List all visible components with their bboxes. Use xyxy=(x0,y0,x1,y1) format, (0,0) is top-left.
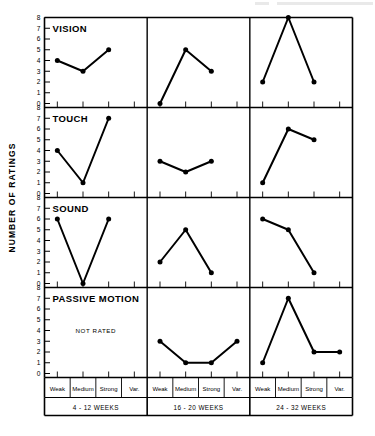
data-point xyxy=(209,270,214,275)
y-tick-label: 8 xyxy=(37,194,41,201)
x-category-label: Weak xyxy=(50,386,66,392)
y-tick-label: 3 xyxy=(37,248,41,255)
panel-title-passive-motion: PASSIVE MOTION xyxy=(53,293,140,304)
y-tick-label: 6 xyxy=(37,125,41,132)
x-category-label: Strong xyxy=(100,386,118,392)
data-point xyxy=(183,227,188,232)
data-point xyxy=(183,170,188,175)
y-tick-label: 5 xyxy=(37,226,41,233)
figure-container: NUMBER OF RATINGS01234567801234567801234… xyxy=(0,0,375,436)
data-point xyxy=(260,80,265,85)
group-label: 4 - 12 WEEKS xyxy=(73,404,119,411)
data-point xyxy=(183,47,188,52)
y-axis-row-1: 012345678 xyxy=(37,14,50,107)
y-tick-label: 3 xyxy=(37,68,41,75)
x-category-label: Strong xyxy=(305,386,323,392)
y-tick-label: 5 xyxy=(37,46,41,53)
y-tick-label: 7 xyxy=(37,25,41,32)
y-tick-label: 6 xyxy=(37,305,41,312)
data-point xyxy=(312,350,317,355)
x-category-label: Var. xyxy=(129,386,140,392)
series-vision-g3 xyxy=(260,15,316,85)
y-tick-label: 0 xyxy=(37,370,41,377)
y-tick-label: 8 xyxy=(37,14,41,21)
x-category-label: Var. xyxy=(335,386,346,392)
x-category-label: Medium xyxy=(278,386,299,392)
series-passive-motion-g3 xyxy=(260,296,342,366)
series-line xyxy=(263,298,340,363)
data-point xyxy=(286,227,291,232)
y-tick-label: 1 xyxy=(37,269,41,276)
y-axis-row-4: 012345678 xyxy=(37,284,50,377)
y-tick-label: 2 xyxy=(37,168,41,175)
data-point xyxy=(106,217,111,222)
data-point xyxy=(312,270,317,275)
not-rated-label: NOT RATED xyxy=(76,327,117,334)
group-label: 16 - 20 WEEKS xyxy=(174,404,224,411)
x-category-label: Strong xyxy=(202,386,220,392)
series-vision-g2 xyxy=(158,47,214,106)
data-point xyxy=(260,217,265,222)
series-passive-motion-g1: NOT RATED xyxy=(76,327,117,334)
series-touch-g1 xyxy=(55,116,111,186)
data-point xyxy=(312,80,317,85)
series-touch-g2 xyxy=(158,159,214,175)
series-line xyxy=(160,50,211,104)
top-artifact-strip xyxy=(255,0,373,7)
data-point xyxy=(106,116,111,121)
ratings-small-multiples-chart: NUMBER OF RATINGS01234567801234567801234… xyxy=(0,0,375,436)
y-tick-label: 7 xyxy=(37,295,41,302)
data-point xyxy=(158,159,163,164)
y-tick-label: 1 xyxy=(37,89,41,96)
data-point xyxy=(286,127,291,132)
series-sound-g2 xyxy=(158,227,214,275)
y-tick-label: 6 xyxy=(37,35,41,42)
x-category-label: Weak xyxy=(255,386,271,392)
data-point xyxy=(235,339,240,344)
group-label: 24 - 32 WEEKS xyxy=(276,404,326,411)
data-point xyxy=(286,296,291,301)
y-axis-row-2: 012345678 xyxy=(37,104,50,197)
y-tick-label: 3 xyxy=(37,158,41,165)
y-tick-label: 8 xyxy=(37,104,41,111)
y-tick-label: 4 xyxy=(37,57,41,64)
y-tick-label: 1 xyxy=(37,179,41,186)
series-line xyxy=(57,219,108,284)
panel-title-sound: SOUND xyxy=(53,203,89,214)
data-point xyxy=(260,360,265,365)
series-line xyxy=(263,18,314,83)
data-point xyxy=(209,360,214,365)
series-line xyxy=(160,230,211,273)
data-point xyxy=(55,217,60,222)
y-tick-label: 2 xyxy=(37,78,41,85)
y-tick-label: 2 xyxy=(37,348,41,355)
data-point xyxy=(55,148,60,153)
x-category-label: Medium xyxy=(175,386,196,392)
series-touch-g3 xyxy=(260,127,316,186)
y-tick-label: 1 xyxy=(37,359,41,366)
data-point xyxy=(158,101,163,106)
data-point xyxy=(209,159,214,164)
data-point xyxy=(183,360,188,365)
panel-title-touch: TOUCH xyxy=(53,113,89,124)
y-tick-label: 6 xyxy=(37,215,41,222)
y-tick-label: 4 xyxy=(37,147,41,154)
y-tick-label: 5 xyxy=(37,316,41,323)
data-point xyxy=(158,260,163,265)
data-point xyxy=(106,47,111,52)
x-category-label: Weak xyxy=(152,386,168,392)
y-tick-label: 4 xyxy=(37,237,41,244)
series-sound-g1 xyxy=(55,217,111,287)
x-category-label: Medium xyxy=(72,386,93,392)
x-category-label: Var. xyxy=(232,386,243,392)
data-point xyxy=(55,58,60,63)
y-tick-label: 4 xyxy=(37,327,41,334)
series-line xyxy=(57,50,108,72)
panel-title-vision: VISION xyxy=(53,23,88,34)
y-tick-label: 3 xyxy=(37,338,41,345)
data-point xyxy=(260,180,265,185)
data-point xyxy=(312,137,317,142)
data-point xyxy=(81,281,86,286)
series-line xyxy=(57,118,108,183)
y-axis-row-3: 012345678 xyxy=(37,194,50,287)
